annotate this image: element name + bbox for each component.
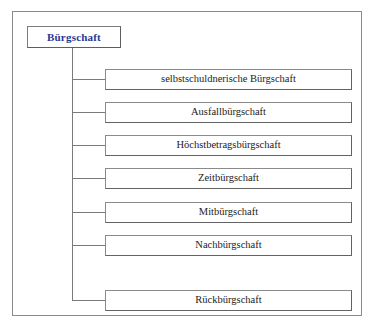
node-child-hoechstbetragsbuergschaft[interactable]: Höchstbetragsbürgschaft — [105, 135, 352, 156]
node-child-label: Rückbürgschaft — [195, 295, 261, 306]
connector-stub-3 — [72, 145, 105, 146]
connector-stub-6 — [72, 245, 105, 246]
connector-stub-1 — [72, 79, 105, 80]
node-root-label: Bürgschaft — [47, 32, 101, 43]
diagram-outer-frame — [12, 11, 362, 316]
connector-stub-4 — [72, 178, 105, 179]
node-child-label: selbstschuldnerische Bürgschaft — [161, 74, 296, 85]
node-child-label: Nachbürgschaft — [195, 240, 261, 251]
connector-trunk-vertical — [72, 48, 73, 300]
node-child-label: Höchstbetragsbürgschaft — [176, 140, 280, 151]
connector-stub-5 — [72, 212, 105, 213]
caption-cutoff-strip — [0, 330, 376, 336]
node-child-label: Mitbürgschaft — [199, 207, 258, 218]
connector-stub-7 — [72, 300, 105, 301]
connector-stub-2 — [72, 112, 105, 113]
diagram-canvas: Bürgschaft selbstschuldnerische Bürgscha… — [0, 0, 376, 336]
node-child-label: Zeitbürgschaft — [198, 173, 259, 184]
node-child-rueckbuergschaft[interactable]: Rückbürgschaft — [105, 290, 352, 311]
node-child-selbstschuldnerische-buergschaft[interactable]: selbstschuldnerische Bürgschaft — [105, 69, 352, 90]
node-child-ausfallbuergschaft[interactable]: Ausfallbürgschaft — [105, 102, 352, 123]
node-child-mitbuergschaft[interactable]: Mitbürgschaft — [105, 202, 352, 223]
node-root-buergschaft[interactable]: Bürgschaft — [27, 26, 121, 48]
node-child-label: Ausfallbürgschaft — [191, 107, 266, 118]
node-child-zeitbuergschaft[interactable]: Zeitbürgschaft — [105, 168, 352, 189]
node-child-nachbuergschaft[interactable]: Nachbürgschaft — [105, 235, 352, 256]
